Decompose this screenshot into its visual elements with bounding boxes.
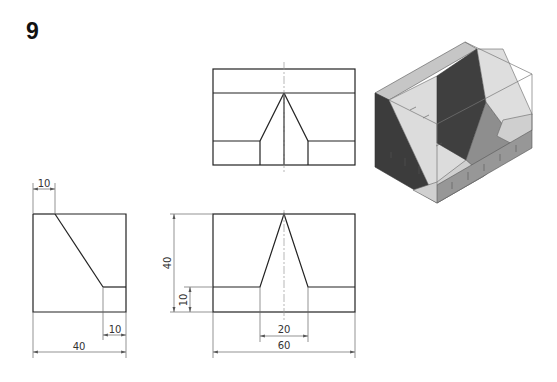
dim-label-bottom-step: 10 <box>109 324 122 335</box>
dim-label-overall-depth: 40 <box>73 341 86 352</box>
dim-label-overall-width: 60 <box>278 340 291 351</box>
side-view-slope <box>55 214 103 287</box>
isometric-view <box>375 42 532 203</box>
top-view-slope-right <box>284 93 308 141</box>
side-view-outline <box>33 214 126 312</box>
dim-label-slot-width: 20 <box>278 324 291 335</box>
side-view: 10 10 40 <box>33 178 126 358</box>
front-view: 40 10 20 60 <box>162 210 355 358</box>
dim-label-height: 40 <box>162 257 173 270</box>
dim-label-step-height: 10 <box>178 294 189 307</box>
top-view <box>213 62 355 172</box>
top-view-slope-left <box>260 93 284 141</box>
dim-label-top-offset: 10 <box>38 178 51 189</box>
